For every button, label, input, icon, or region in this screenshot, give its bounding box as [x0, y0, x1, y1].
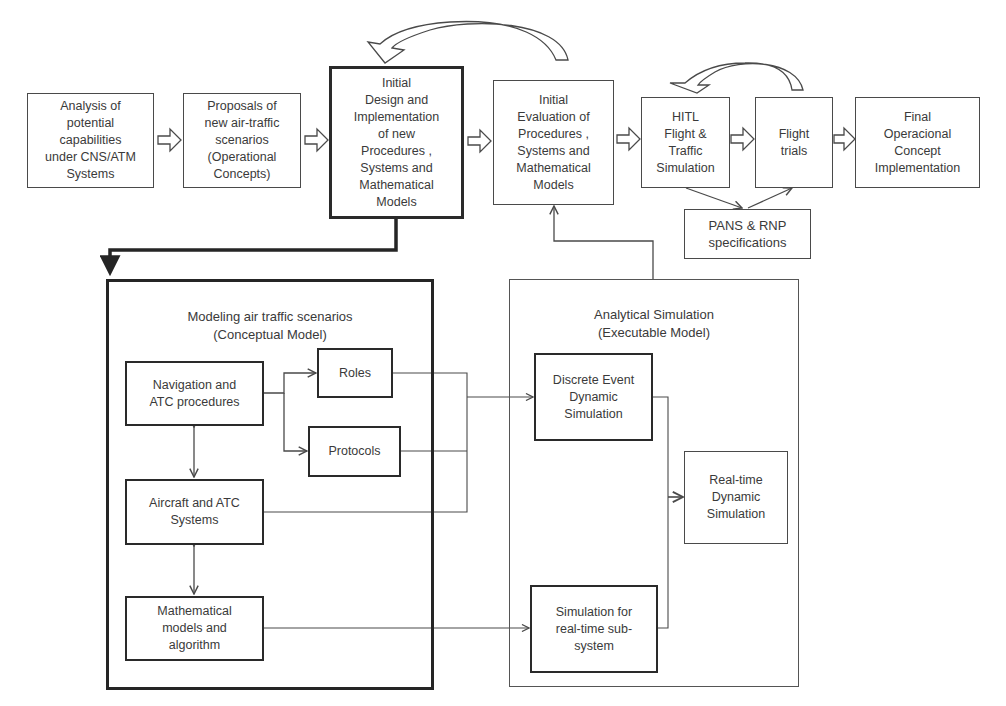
box-roles: Roles — [317, 348, 393, 398]
block-arrow-5-icon — [731, 128, 754, 150]
box-discrete-event-simulation: Discrete Event Dynamic Simulation — [534, 353, 653, 441]
box-initial-design: Initial Design and Implementation of new… — [329, 66, 464, 219]
analytical-to-evaluation-connector — [554, 206, 653, 279]
feedback-arrow-trials-to-hitl-icon — [670, 63, 803, 93]
box-flight-trials: Flight trials — [755, 97, 833, 188]
box-math-models: Mathematical models and algorithm — [125, 596, 264, 661]
block-arrow-6-icon — [834, 128, 855, 150]
block-arrow-1-icon — [158, 129, 181, 151]
block-arrow-4-icon — [617, 128, 640, 150]
box-analysis: Analysis of potential capabilities under… — [27, 93, 154, 188]
box-aircraft-atc-systems: Aircraft and ATC Systems — [125, 479, 264, 545]
box-hitl: HITL Flight & Traffic Simulation — [641, 97, 730, 188]
box-pans-rnp: PANS & RNP specifications — [684, 209, 811, 259]
design-to-conceptual-connector — [110, 219, 396, 272]
box-realtime-subsystem-simulation: Simulation for real-time sub- system — [530, 585, 658, 673]
block-arrow-3-icon — [468, 130, 491, 152]
feedback-arrow-eval-to-design-icon — [368, 22, 568, 63]
box-realtime-dynamic-simulation: Real-time Dynamic Simulation — [684, 451, 788, 544]
box-protocols: Protocols — [308, 426, 401, 477]
analytical-simulation-title: Analytical Simulation (Executable Model) — [510, 306, 798, 342]
block-arrow-2-icon — [305, 129, 328, 151]
box-initial-evaluation: Initial Evaluation of Procedures , Syste… — [493, 80, 614, 205]
conceptual-model-title: Modeling air traffic scenarios (Conceptu… — [109, 308, 431, 344]
box-final-implementation: Final Operacional Concept Implementation — [855, 97, 980, 188]
box-nav-atc-procedures: Navigation and ATC procedures — [125, 361, 264, 426]
box-proposals: Proposals of new air-traffic scenarios (… — [183, 93, 301, 188]
